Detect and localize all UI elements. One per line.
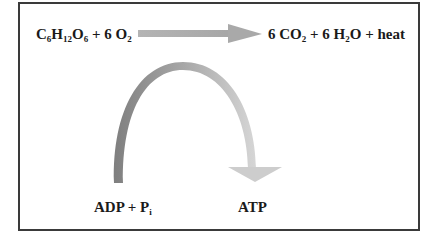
atp-label: ATP [238, 199, 267, 216]
product-o-heat: O + heat [350, 26, 405, 42]
products-formula: 6 CO2 + 6 H2O + heat [268, 26, 405, 43]
product-h: + 6 H [306, 26, 345, 42]
adp-label: ADP + Pi [94, 199, 152, 216]
reactant-h: H [51, 26, 63, 42]
sub-2: 2 [127, 34, 132, 44]
reactant-o2: + 6 O [88, 26, 127, 42]
product-co: 6 CO [268, 26, 302, 42]
reactant-o: O [72, 26, 84, 42]
reactants-formula: C6H12O6 + 6 O2 [36, 26, 132, 43]
adp-text: ADP + P [94, 199, 149, 215]
reaction-arrow-icon [138, 24, 262, 43]
coupling-arc-arrow-icon [114, 62, 282, 183]
sub-12: 12 [63, 34, 72, 44]
reactant-c: C [36, 26, 47, 42]
sub-i: i [149, 207, 152, 217]
